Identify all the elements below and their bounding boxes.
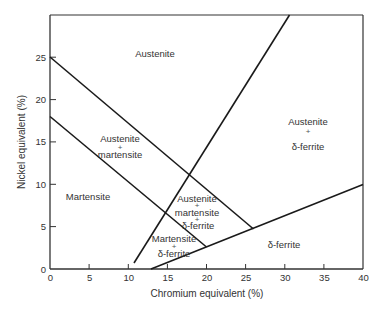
y-tick-labels: 0 5 10 15 20 25 <box>35 52 46 275</box>
svg-text:δ-ferrite: δ-ferrite <box>292 141 325 152</box>
svg-text:+: + <box>306 127 311 136</box>
y-axis-ticks <box>50 57 56 226</box>
svg-text:δ-ferrite: δ-ferrite <box>182 220 215 231</box>
y-tick-5: 5 <box>41 221 46 232</box>
x-tick-30: 30 <box>280 272 291 283</box>
svg-text:martensite: martensite <box>98 149 142 160</box>
y-tick-15: 15 <box>35 136 46 147</box>
region-austenite-martensite: Austenite + martensite <box>98 133 142 160</box>
y-axis-label: Nickel equivalent (%) <box>16 95 27 189</box>
svg-text:Austenite: Austenite <box>288 116 328 127</box>
region-austenite-delta-ferrite: Austenite + δ-ferrite <box>288 116 328 152</box>
region-martensite-delta-ferrite: Martensite + δ-ferrite <box>152 233 196 259</box>
x-axis-ticks <box>89 264 324 269</box>
region-labels: Austenite Austenite + martensite Martens… <box>66 48 328 259</box>
y-tick-0: 0 <box>41 264 46 275</box>
schaeffler-diagram: 0 5 10 15 20 25 30 35 40 0 5 10 15 20 25… <box>0 0 385 314</box>
austenite-upper-boundary <box>50 57 254 229</box>
y-tick-10: 10 <box>35 179 46 190</box>
x-tick-15: 15 <box>163 272 174 283</box>
region-delta-ferrite: δ-ferrite <box>268 239 301 250</box>
x-tick-20: 20 <box>202 272 213 283</box>
y-tick-25: 25 <box>35 52 46 63</box>
svg-text:δ-ferrite: δ-ferrite <box>158 248 191 259</box>
x-tick-10: 10 <box>124 272 135 283</box>
x-tick-5: 5 <box>87 272 92 283</box>
x-tick-labels: 0 5 10 15 20 25 30 35 40 <box>48 272 369 283</box>
x-tick-0: 0 <box>48 272 53 283</box>
y-tick-20: 20 <box>35 94 46 105</box>
x-tick-40: 40 <box>358 272 369 283</box>
x-axis-label: Chromium equivalent (%) <box>151 288 264 299</box>
x-tick-35: 35 <box>319 272 330 283</box>
region-martensite: Martensite <box>66 191 110 202</box>
region-austenite-martensite-delta-ferrite: Austenite + martensite + δ-ferrite <box>175 193 219 231</box>
x-tick-25: 25 <box>241 272 252 283</box>
region-austenite: Austenite <box>135 48 175 59</box>
